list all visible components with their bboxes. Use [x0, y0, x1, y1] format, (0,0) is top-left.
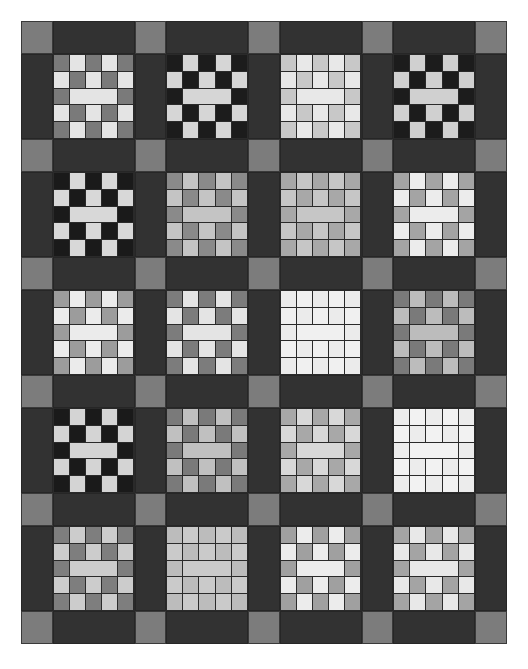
block-patch	[54, 476, 69, 492]
block-patch	[167, 223, 182, 239]
sashing-strip	[166, 493, 248, 526]
block-patch	[410, 72, 425, 88]
quilt-block	[280, 408, 362, 493]
block-patch	[410, 325, 458, 341]
block-patch	[281, 55, 296, 71]
block-patch	[183, 594, 198, 610]
cornerstone	[362, 375, 394, 408]
block-patch	[345, 122, 360, 138]
block-patch	[167, 89, 182, 105]
sashing-strip	[135, 408, 167, 493]
cornerstone	[362, 493, 394, 526]
block-patch	[216, 240, 231, 256]
block-patch	[70, 561, 118, 577]
block-patch	[394, 308, 409, 324]
block-patch	[216, 476, 231, 492]
block-patch	[281, 173, 296, 189]
block-patch	[232, 325, 247, 341]
block-patch	[297, 207, 345, 223]
block-patch	[232, 577, 247, 593]
cornerstone	[21, 493, 53, 526]
block-patch	[102, 409, 117, 425]
block-patch	[313, 476, 328, 492]
block-patch	[443, 223, 458, 239]
block-patch	[426, 240, 441, 256]
block-patch	[199, 190, 214, 206]
block-patch	[102, 341, 117, 357]
block-patch	[232, 459, 247, 475]
cornerstone	[248, 611, 280, 644]
block-patch	[232, 207, 247, 223]
sashing-strip	[166, 375, 248, 408]
sashing-strip	[280, 21, 362, 54]
block-patch	[232, 55, 247, 71]
block-patch	[426, 544, 441, 560]
block-patch	[70, 55, 85, 71]
block-patch	[118, 207, 133, 223]
block-patch	[167, 476, 182, 492]
block-patch	[183, 443, 231, 459]
block-patch	[297, 223, 312, 239]
block-patch	[281, 544, 296, 560]
block-patch	[281, 561, 296, 577]
block-patch	[443, 544, 458, 560]
block-patch	[459, 55, 474, 71]
cornerstone	[21, 611, 53, 644]
block-patch	[459, 476, 474, 492]
block-patch	[329, 476, 344, 492]
block-patch	[281, 594, 296, 610]
block-patch	[86, 173, 101, 189]
block-patch	[426, 476, 441, 492]
block-patch	[313, 291, 328, 307]
block-patch	[329, 55, 344, 71]
block-patch	[54, 308, 69, 324]
block-patch	[443, 308, 458, 324]
block-patch	[281, 190, 296, 206]
cornerstone	[135, 257, 167, 290]
block-patch	[394, 544, 409, 560]
block-patch	[394, 55, 409, 71]
sashing-strip	[166, 21, 248, 54]
sashing-strip	[475, 54, 507, 139]
block-patch	[313, 55, 328, 71]
sashing-strip	[393, 611, 475, 644]
block-patch	[183, 240, 198, 256]
block-patch	[345, 240, 360, 256]
block-patch	[102, 308, 117, 324]
cornerstone	[135, 21, 167, 54]
block-patch	[54, 223, 69, 239]
block-patch	[232, 594, 247, 610]
sashing-strip	[166, 139, 248, 172]
block-patch	[118, 577, 133, 593]
block-patch	[216, 594, 231, 610]
block-patch	[232, 544, 247, 560]
block-patch	[281, 105, 296, 121]
block-patch	[459, 72, 474, 88]
block-patch	[167, 122, 182, 138]
block-patch	[459, 527, 474, 543]
sashing-strip	[53, 611, 135, 644]
quilt-block	[166, 172, 248, 257]
block-patch	[54, 544, 69, 560]
block-patch	[216, 190, 231, 206]
block-patch	[297, 105, 312, 121]
block-patch	[199, 55, 214, 71]
block-patch	[70, 173, 85, 189]
block-patch	[232, 173, 247, 189]
block-patch	[410, 594, 425, 610]
block-patch	[345, 577, 360, 593]
block-patch	[345, 173, 360, 189]
quilt-block	[393, 54, 475, 139]
block-patch	[232, 223, 247, 239]
block-patch	[345, 308, 360, 324]
sashing-strip	[393, 21, 475, 54]
cornerstone	[135, 493, 167, 526]
block-patch	[313, 594, 328, 610]
block-patch	[199, 544, 214, 560]
block-patch	[410, 291, 425, 307]
block-patch	[443, 527, 458, 543]
block-patch	[199, 358, 214, 374]
block-patch	[426, 291, 441, 307]
block-patch	[313, 105, 328, 121]
block-patch	[102, 223, 117, 239]
